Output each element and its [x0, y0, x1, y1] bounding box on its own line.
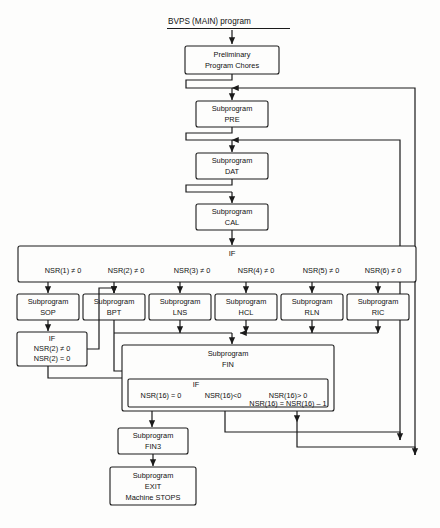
main-if-keyword: IF [229, 249, 236, 258]
main-if-condition-5: NSR(5) ≠ 0 [303, 266, 339, 275]
sop-label-line1: Subprogram [28, 297, 69, 306]
lns-label-line1: Subprogram [160, 297, 201, 306]
hcl-label-line1: Subprogram [226, 297, 267, 306]
rln-label-line1: Subprogram [292, 297, 333, 306]
sop-if-condition-2: NSR(2) = 0 [34, 354, 71, 363]
rln-label-line2: RLN [305, 308, 320, 317]
fin-if-condition-2: NSR(16)<0 [205, 391, 242, 400]
node-main-if [18, 246, 416, 282]
flowchart-svg: BVPS (MAIN) program Preliminary Program … [0, 0, 440, 528]
bpt-label-line2: BPT [107, 308, 122, 317]
pre-label-line2: PRE [224, 115, 239, 124]
fin-if-keyword: IF [193, 380, 200, 389]
fin3-label-line1: Subprogram [133, 431, 174, 440]
exit-label-line1: Subprogram [133, 471, 174, 480]
path-prelim-to-pre-bus [186, 74, 232, 88]
main-if-condition-6: NSR(6) ≠ 0 [365, 266, 401, 275]
prelim-label-line2: Program Chores [205, 61, 260, 70]
fin3-label-line2: FIN3 [145, 442, 161, 451]
path-fin-to-return-inner [225, 411, 400, 440]
sop-if-condition-1: NSR(2) ≠ 0 [34, 344, 70, 353]
dat-label-line2: DAT [225, 167, 240, 176]
diagram-title: BVPS (MAIN) program [168, 17, 251, 26]
flowchart-page: BVPS (MAIN) program Preliminary Program … [0, 0, 440, 528]
dat-label-line1: Subprogram [212, 156, 253, 165]
exit-label-line3: Machine STOPS [126, 493, 181, 502]
cal-label-line2: CAL [225, 218, 239, 227]
ric-label-line2: RIC [372, 308, 385, 317]
sop-label-line2: SOP [40, 308, 56, 317]
lns-label-line2: LNS [173, 308, 187, 317]
ric-label-line1: Subprogram [358, 297, 399, 306]
cal-label-line1: Subprogram [212, 207, 253, 216]
main-if-condition-1: NSR(1) ≠ 0 [45, 266, 81, 275]
main-if-condition-3: NSR(3) ≠ 0 [174, 266, 210, 275]
path-bpt-to-fin-left [114, 333, 122, 371]
main-if-condition-4: NSR(4) ≠ 0 [238, 266, 274, 275]
path-fin-to-return-outer [297, 422, 415, 455]
fin-label-line2: FIN [222, 360, 234, 369]
path-sop-if-to-fin-bus [48, 366, 122, 378]
bpt-label-line1: Subprogram [94, 297, 135, 306]
fin-label-line1: Subprogram [208, 349, 249, 358]
path-pre-to-dat-bus [186, 127, 232, 140]
sop-if-keyword: IF [49, 334, 56, 343]
main-if-condition-2: NSR(2) ≠ 0 [108, 266, 144, 275]
prelim-label-line1: Preliminary [214, 50, 251, 59]
pre-label-line1: Subprogram [212, 104, 253, 113]
hcl-label-line2: HCL [239, 308, 254, 317]
fin-if-assignment: NSR(16) = NSR(16) – 1 [249, 399, 326, 408]
exit-label-line2: EXIT [145, 482, 162, 491]
path-dat-to-cal-bus [186, 179, 232, 192]
fin-if-condition-1: NSR(16) = 0 [141, 391, 182, 400]
